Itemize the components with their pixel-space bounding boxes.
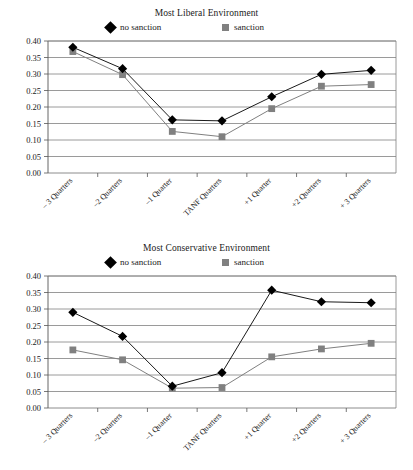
x-tick-label: +2 Quarters	[290, 176, 323, 209]
data-point-square	[219, 384, 226, 391]
data-point-square	[268, 353, 275, 360]
x-tick-label: –2 Quarters	[90, 176, 124, 210]
data-point-square	[169, 128, 176, 135]
x-tick-label: –1 Quarter	[142, 411, 174, 443]
plot-area: 0.000.050.100.150.200.250.300.350.40– 3 …	[0, 0, 413, 235]
x-tick-label-group: – 3 Quarters	[39, 176, 74, 211]
x-tick-label-group: –1 Quarter	[142, 176, 174, 208]
data-point-square	[318, 346, 325, 353]
data-point-square	[69, 347, 76, 354]
x-tick-label-group: +2 Quarters	[290, 411, 323, 444]
x-tick-label: – 3 Quarters	[39, 176, 74, 211]
x-tick-label: + 3 Quarters	[338, 176, 373, 211]
x-tick-label-group: +1 Quarter	[242, 176, 273, 207]
y-tick-label: 0.05	[26, 152, 41, 162]
chart-panel-conservative: Most Conservative Environment no sanctio…	[0, 235, 413, 470]
y-tick-label: 0.10	[26, 135, 41, 145]
x-tick-label-group: + 3 Quarters	[338, 411, 373, 446]
y-tick-label: 0.25	[26, 321, 41, 331]
x-tick-label: TANF Quarters	[182, 176, 224, 218]
data-point-diamond	[367, 298, 376, 307]
y-tick-label: 0.15	[26, 354, 41, 364]
x-tick-label: –1 Quarter	[142, 176, 174, 208]
data-point-square	[318, 83, 325, 90]
data-point-square	[268, 105, 275, 112]
y-tick-label: 0.10	[26, 370, 41, 380]
data-point-diamond	[317, 297, 326, 306]
x-tick-label: – 3 Quarters	[39, 411, 74, 446]
x-tick-label: +1 Quarter	[242, 176, 273, 207]
y-tick-label: 0.05	[26, 387, 41, 397]
series-line-sanction	[73, 343, 371, 388]
data-point-square	[368, 81, 375, 88]
y-tick-label: 0.00	[26, 168, 41, 178]
x-tick-label: TANF Quarters	[182, 411, 224, 453]
y-tick-label: 0.35	[26, 288, 41, 298]
x-tick-label: –2 Quarters	[90, 411, 124, 445]
data-point-diamond	[267, 286, 276, 295]
y-tick-label: 0.30	[26, 304, 41, 314]
y-tick-label: 0.30	[26, 69, 41, 79]
x-tick-label: +1 Quarter	[242, 411, 273, 442]
data-point-diamond	[317, 70, 326, 79]
y-tick-label: 0.20	[26, 102, 41, 112]
chart-panel-liberal: Most Liberal Environment no sanction san…	[0, 0, 413, 235]
data-point-diamond	[267, 92, 276, 101]
x-tick-label-group: TANF Quarters	[182, 411, 224, 453]
x-tick-label-group: +1 Quarter	[242, 411, 273, 442]
x-tick-label-group: + 3 Quarters	[338, 176, 373, 211]
y-tick-label: 0.40	[26, 271, 41, 281]
y-tick-label: 0.00	[26, 403, 41, 413]
x-tick-label-group: –2 Quarters	[90, 411, 124, 445]
data-point-diamond	[217, 368, 226, 377]
y-tick-label: 0.15	[26, 119, 41, 129]
data-point-diamond	[217, 116, 226, 125]
x-tick-label-group: –1 Quarter	[142, 411, 174, 443]
plot-area: 0.000.050.100.150.200.250.300.350.40– 3 …	[0, 235, 413, 470]
x-tick-label-group: –2 Quarters	[90, 176, 124, 210]
x-tick-label-group: – 3 Quarters	[39, 411, 74, 446]
data-point-square	[119, 356, 126, 363]
x-tick-label-group: TANF Quarters	[182, 176, 224, 218]
series-line-no-sanction	[73, 47, 371, 121]
y-tick-label: 0.35	[26, 53, 41, 63]
x-tick-label-group: +2 Quarters	[290, 176, 323, 209]
x-tick-label: +2 Quarters	[290, 411, 323, 444]
data-point-diamond	[367, 66, 376, 75]
x-tick-label: + 3 Quarters	[338, 411, 373, 446]
y-tick-label: 0.40	[26, 36, 41, 46]
data-point-square	[219, 133, 226, 140]
data-point-square	[368, 340, 375, 347]
y-tick-label: 0.25	[26, 86, 41, 96]
y-tick-label: 0.20	[26, 337, 41, 347]
